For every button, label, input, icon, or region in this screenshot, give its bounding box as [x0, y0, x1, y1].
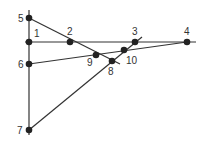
point-label-4: 4	[184, 26, 190, 37]
point-label-6: 6	[18, 59, 24, 70]
point-label-10: 10	[126, 55, 138, 66]
point-3	[132, 39, 139, 46]
point-label-8: 8	[108, 66, 114, 77]
point-2	[67, 39, 74, 46]
geometry-diagram: 12345678910	[0, 0, 206, 147]
point-5	[26, 15, 33, 22]
point-7	[26, 127, 33, 134]
point-label-3: 3	[132, 26, 138, 37]
line-6-4	[29, 42, 187, 64]
point-label-5: 5	[18, 13, 24, 24]
point-4	[184, 39, 191, 46]
point-label-7: 7	[17, 125, 23, 136]
point-label-1: 1	[34, 28, 40, 39]
labels-layer: 12345678910	[17, 13, 190, 136]
point-8	[109, 58, 116, 65]
point-9	[93, 52, 100, 59]
point-10	[121, 47, 128, 54]
point-label-2: 2	[67, 26, 73, 37]
point-label-9: 9	[87, 57, 93, 68]
point-6	[26, 61, 33, 68]
point-1	[26, 39, 33, 46]
